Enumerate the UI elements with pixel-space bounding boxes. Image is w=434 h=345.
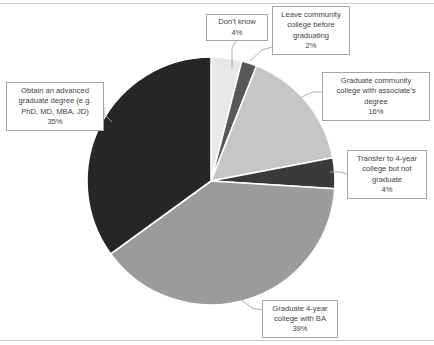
callout-graduate-community-college-percent: 16% bbox=[368, 107, 383, 117]
callout-advanced-degree-percent: 35% bbox=[47, 117, 62, 127]
pie-slice-group bbox=[87, 57, 335, 305]
chart-page: Don't know 4% Leave community college be… bbox=[0, 0, 434, 345]
callout-graduate-ba-percent: 39% bbox=[292, 324, 307, 334]
callout-graduate-community-college: Graduate community college with associat… bbox=[322, 72, 430, 121]
callout-leave-community-college-percent: 2% bbox=[306, 41, 317, 51]
callout-dont-know: Don't know 4% bbox=[206, 14, 268, 41]
callout-graduate-ba: Graduate 4-year college with BA 39% bbox=[262, 300, 338, 338]
callout-graduate-community-college-text: Graduate community college with associat… bbox=[336, 76, 415, 107]
callout-dont-know-percent: 4% bbox=[232, 28, 243, 38]
callout-advanced-degree: Obtain an advanced graduate degree (e.g.… bbox=[6, 82, 104, 131]
callout-leave-community-college: Leave community college before graduatin… bbox=[272, 6, 350, 55]
callout-transfer-not-graduate-text: Transfer to 4-year college but not gradu… bbox=[357, 154, 417, 185]
callout-leave-community-college-text: Leave community college before graduatin… bbox=[281, 10, 341, 41]
callout-dont-know-text: Don't know bbox=[218, 17, 255, 27]
callout-advanced-degree-text: Obtain an advanced graduate degree (e.g.… bbox=[18, 86, 91, 117]
callout-transfer-not-graduate: Transfer to 4-year college but not gradu… bbox=[347, 150, 427, 199]
callout-transfer-not-graduate-percent: 4% bbox=[382, 185, 393, 195]
leader-line-leave bbox=[250, 47, 272, 61]
callout-graduate-ba-text: Graduate 4-year college with BA bbox=[272, 304, 327, 324]
